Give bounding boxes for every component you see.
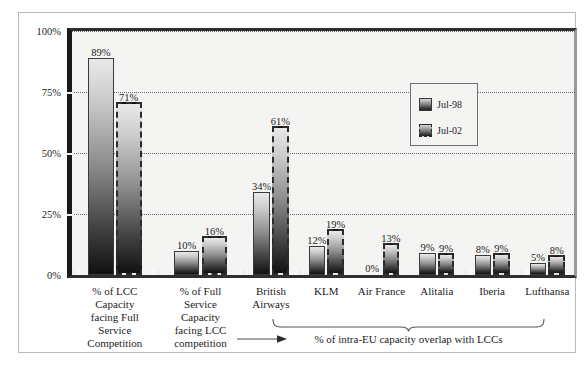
- bar-value-label: 61%: [271, 116, 290, 127]
- bar-value-label: 9%: [439, 243, 453, 254]
- category-brace: [272, 318, 545, 332]
- bar-jul-98-2: 34%: [253, 192, 270, 275]
- category-tick: [464, 269, 466, 275]
- bar-value-label: 5%: [531, 252, 545, 263]
- category-tick: [299, 269, 301, 275]
- category-tick: [158, 269, 160, 275]
- bar-jul-98-4: 0%: [364, 275, 381, 276]
- bar-jul-02-4: 13%: [383, 243, 400, 275]
- legend-entry-jul-02: Jul-02: [419, 124, 462, 137]
- x-axis-label-7: Lufthansa: [512, 285, 583, 298]
- bar-jul-98-0: 89%: [88, 58, 114, 275]
- bar-jul-02-3: 19%: [327, 229, 344, 275]
- bar-value-label: 16%: [205, 226, 224, 237]
- y-axis-tick-mark: [67, 92, 74, 94]
- y-axis-tick-label: 100%: [27, 26, 61, 37]
- gridline: [72, 31, 575, 32]
- bar-value-label: 34%: [252, 181, 271, 192]
- bar-jul-02-1: 16%: [202, 236, 228, 275]
- bar-jul-02-2: 61%: [272, 126, 289, 275]
- bar-jul-02-0: 71%: [116, 102, 142, 275]
- y-axis-tick-mark: [67, 153, 74, 155]
- bar-value-label: 9%: [494, 243, 508, 254]
- y-axis-tick-label: 50%: [27, 148, 61, 159]
- x-axis-label-line: Airways: [235, 298, 306, 311]
- legend-swatch-icon: [419, 124, 432, 137]
- bar-jul-02-7: 8%: [548, 255, 565, 275]
- bar-jul-98-1: 10%: [174, 251, 200, 275]
- legend-swatch-icon: [419, 98, 432, 111]
- y-axis-tick-mark: [67, 214, 74, 216]
- category-tick: [243, 269, 245, 275]
- bar-value-label: 8%: [476, 244, 490, 255]
- bar-value-label: 8%: [550, 245, 564, 256]
- figure-frame: 0%25%50%75%100% 89%71%10%16%34%61%12%19%…: [18, 12, 576, 353]
- category-tick: [354, 269, 356, 275]
- bar-jul-98-3: 12%: [309, 246, 326, 275]
- bar-value-label: 19%: [326, 219, 345, 230]
- bar-value-label: 71%: [119, 92, 138, 103]
- bar-jul-02-6: 9%: [493, 253, 510, 275]
- legend-label: Jul-02: [437, 125, 462, 136]
- gridline: [72, 153, 575, 154]
- gridline: [72, 214, 575, 215]
- y-axis-tick-label: 0%: [27, 270, 61, 281]
- category-tick: [520, 269, 522, 275]
- bar-value-label: 9%: [421, 242, 435, 253]
- category-tick: [409, 269, 411, 275]
- bar-jul-98-7: 5%: [530, 263, 547, 275]
- y-axis-tick-label: 75%: [27, 87, 61, 98]
- chart-legend: Jul-98Jul-02: [410, 83, 478, 146]
- bar-value-label: 12%: [307, 235, 326, 246]
- bar-jul-98-5: 9%: [419, 253, 436, 275]
- bar-jul-02-5: 9%: [438, 253, 455, 275]
- bar-value-label: 13%: [381, 233, 400, 244]
- category-tick: [72, 269, 74, 275]
- bar-value-label: 89%: [91, 47, 110, 58]
- bar-jul-98-6: 8%: [475, 255, 492, 275]
- legend-label: Jul-98: [437, 99, 462, 110]
- brace-annotation-label: % of intra-EU capacity overlap with LCCs: [272, 333, 545, 345]
- gridline: [72, 92, 575, 93]
- plot-area: 89%71%10%16%34%61%12%19%0%13%9%9%8%9%5%8…: [72, 31, 575, 275]
- y-axis-tick-label: 25%: [27, 209, 61, 220]
- bar-value-label: 10%: [177, 240, 196, 251]
- legend-entry-jul-98: Jul-98: [419, 98, 462, 111]
- x-axis-label-line: Lufthansa: [512, 285, 583, 298]
- bar-value-label: 0%: [365, 263, 379, 274]
- x-axis-label-line: Capacity: [150, 311, 252, 324]
